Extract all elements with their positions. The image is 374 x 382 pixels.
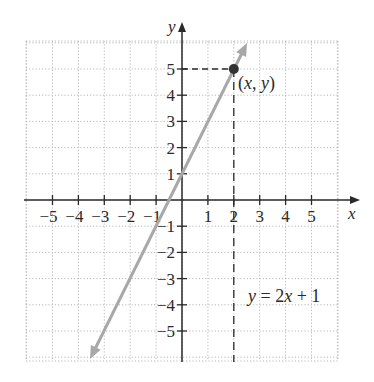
- y-tick-label: 5: [167, 60, 176, 79]
- equation-label: y = 2x + 1: [246, 286, 320, 306]
- x-tick-label: 1: [204, 207, 213, 226]
- coordinate-plane: −5−4−3−2−11234554321−1−2−3−4−5 y x (x, y…: [0, 0, 374, 382]
- x-tick-label: −4: [65, 207, 84, 226]
- y-tick-label: −4: [157, 296, 176, 315]
- y-tick-label: 4: [167, 86, 176, 105]
- x-tick-label: −2: [117, 207, 135, 226]
- axes: [24, 22, 360, 362]
- y-tick-label: 2: [167, 139, 176, 158]
- y-axis-label: y: [166, 17, 176, 36]
- x-axis-label: x: [347, 204, 356, 223]
- y-tick-label: −5: [157, 322, 175, 341]
- y-tick-label: −3: [157, 270, 175, 289]
- x-tick-label: 3: [255, 207, 264, 226]
- x-tick-label: −5: [39, 207, 57, 226]
- labels: y x (x, y) y = 2x + 1: [166, 17, 356, 306]
- x-tick-label: 4: [281, 207, 290, 226]
- point-label: (x, y): [238, 73, 275, 94]
- y-tick-label: −2: [157, 243, 175, 262]
- y-tick-label: 1: [167, 165, 176, 184]
- y-tick-label: 3: [167, 112, 176, 131]
- x-tick-label: −3: [91, 207, 109, 226]
- x-tick-label: 2: [230, 207, 239, 226]
- x-tick-label: 5: [307, 207, 316, 226]
